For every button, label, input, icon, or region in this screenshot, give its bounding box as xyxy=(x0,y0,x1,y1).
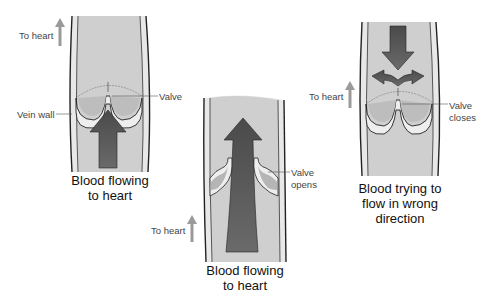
valve-opens-line-1: Valve xyxy=(291,167,317,179)
caption-3-line-1: Blood trying to xyxy=(345,181,455,196)
direction-label-3: To heart xyxy=(309,91,343,102)
direction-label-1: To heart xyxy=(19,30,53,41)
valve-closes-line-2: closes xyxy=(449,112,476,124)
direction-label-2: To heart xyxy=(151,225,185,236)
caption-2-line-2: to heart xyxy=(195,278,295,293)
valve-closes-line-1: Valve xyxy=(449,100,476,112)
caption-panel-3: Blood trying to flow in wrong direction xyxy=(345,181,455,226)
direction-arrow-icon-1 xyxy=(55,18,65,46)
caption-panel-2: Blood flowing to heart xyxy=(195,263,295,293)
caption-3-line-3: direction xyxy=(345,211,455,226)
valve-opens-label: Valve opens xyxy=(291,167,317,191)
valve-closes-label: Valve closes xyxy=(449,100,476,124)
direction-arrow-icon-3 xyxy=(345,81,355,108)
valve-opens-line-2: opens xyxy=(291,179,317,191)
caption-1-line-1: Blood flowing xyxy=(60,173,160,188)
caption-panel-1: Blood flowing to heart xyxy=(60,173,160,203)
caption-3-line-2: flow in wrong xyxy=(345,196,455,211)
panel-2-vein xyxy=(204,95,290,262)
caption-1-line-2: to heart xyxy=(60,188,160,203)
direction-arrow-icon-2 xyxy=(187,215,197,242)
vein-wall-label: Vein wall xyxy=(17,109,55,120)
caption-2-line-1: Blood flowing xyxy=(195,263,295,278)
panel-3-vein xyxy=(360,22,448,176)
vein-valve-diagram xyxy=(0,0,486,297)
panel-1-vein xyxy=(56,16,158,172)
valve-label: Valve xyxy=(159,91,182,102)
